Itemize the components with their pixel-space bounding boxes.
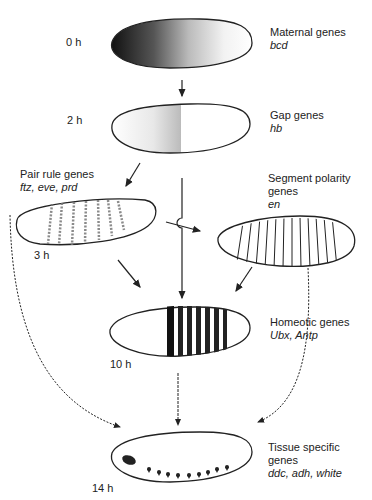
stage-label-segment-polarity: Segment polarity genes en <box>268 172 351 211</box>
time-label-3h: 3 h <box>34 249 49 261</box>
embryo-tissue-specific <box>112 432 252 482</box>
stage-title: Tissue specific <box>268 441 342 454</box>
arrow-segpol-to-homeotic <box>236 267 252 291</box>
stage-title-2: genes <box>268 185 351 198</box>
time-label-2h: 2 h <box>67 114 82 126</box>
stage-label-tissue-specific: Tissue specific genes ddc, adh, white <box>268 441 342 480</box>
gene-names: Ubx, Antp <box>270 329 350 342</box>
gene-names: bcd <box>270 39 346 52</box>
arrow-pairrule-to-homeotic <box>118 260 140 287</box>
stage-title: Maternal genes <box>270 26 346 39</box>
diagram-graphics <box>0 0 372 500</box>
embryo-homeotic <box>110 300 250 360</box>
gene-cascade-diagram: 0 h Maternal genes bcd 2 h Gap genes hb … <box>0 0 372 500</box>
arrow-pairrule-to-tissue <box>10 215 120 427</box>
stage-label-pair-rule: Pair rule genes ftz, eve, prd <box>20 168 94 194</box>
stage-title: Homeotic genes <box>270 316 350 329</box>
stage-title: Segment polarity <box>268 172 351 185</box>
time-label-0h: 0 h <box>66 36 81 48</box>
stage-title: Pair rule genes <box>20 168 94 181</box>
gene-names: en <box>268 198 351 211</box>
arrow-gap-to-homeotic <box>177 178 182 298</box>
embryo-segment-polarity <box>218 216 355 268</box>
time-label-14h: 14 h <box>92 482 113 494</box>
arrow-gap-to-pairrule <box>126 163 140 186</box>
stage-label-gap: Gap genes hb <box>270 109 324 135</box>
arrow-segpol-to-tissue <box>258 268 309 422</box>
embryo-pair-rule <box>16 199 155 245</box>
arrow-pairrule-to-segpol <box>166 222 200 231</box>
embryo-maternal <box>112 19 252 68</box>
stage-label-homeotic: Homeotic genes Ubx, Antp <box>270 316 350 342</box>
stage-label-maternal: Maternal genes bcd <box>270 26 346 52</box>
stage-title-2: genes <box>268 454 342 467</box>
embryo-gap <box>112 104 250 153</box>
stage-title: Gap genes <box>270 109 324 122</box>
gene-names: hb <box>270 122 324 135</box>
gene-names: ddc, adh, white <box>268 467 342 480</box>
gene-names: ftz, eve, prd <box>20 181 94 194</box>
time-label-10h: 10 h <box>110 358 131 370</box>
